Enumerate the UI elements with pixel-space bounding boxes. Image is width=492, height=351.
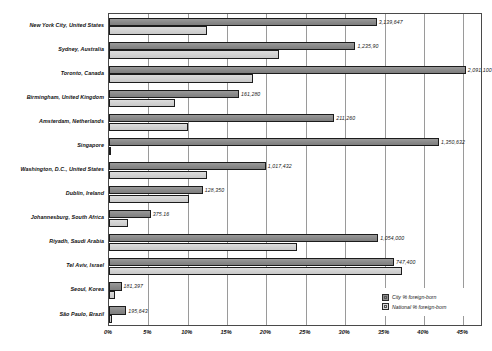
category-label: Birmingham, United Kingdom (27, 94, 104, 100)
bar-value-label: 3,139,647 (379, 19, 403, 25)
x-tick-label: 0% (104, 329, 112, 335)
category-label: Dublin, Ireland (66, 190, 104, 196)
legend-label: National % foreign-born (392, 304, 447, 310)
bar-group: 747,400 (109, 255, 481, 279)
x-tick-label: 30% (339, 329, 350, 335)
category-label: Toronto, Canada (61, 70, 104, 76)
bar-city[interactable]: 1,054,000 (109, 234, 378, 242)
bar-national[interactable] (109, 219, 128, 227)
bar-group: 211,260 (109, 110, 481, 134)
bar-city[interactable]: 161,280 (109, 90, 239, 98)
bar-group: 1,017,432 (109, 158, 481, 182)
x-tick-label: 35% (378, 329, 389, 335)
category-label: São Paulo, Brazil (59, 311, 104, 317)
bar-national[interactable] (109, 74, 253, 82)
bar-value-label: 161,280 (241, 91, 260, 97)
legend-item[interactable]: National % foreign-born (382, 303, 474, 310)
bar-rows: 3,139,6471,235,902,091,100161,280211,260… (109, 14, 481, 325)
bar-value-label: 2,091,100 (468, 67, 492, 73)
category-label: Sydney, Australia (58, 46, 104, 52)
bar-value-label: 1,054,000 (380, 235, 404, 241)
x-axis: 0%5%10%15%20%25%30%35%40%45% (108, 327, 482, 343)
category-label: Washington, D.C., United States (20, 166, 104, 172)
bar-value-label: 1,235,90 (357, 43, 378, 49)
bar-value-label: 195,643 (128, 308, 147, 314)
x-tick-label: 20% (260, 329, 271, 335)
bar-row: 1,350,632 (109, 134, 481, 158)
plot-area: 3,139,6471,235,902,091,100161,280211,260… (108, 13, 482, 326)
bar-national[interactable] (109, 291, 115, 299)
bar-value-label: 1,350,632 (441, 139, 465, 145)
x-tick-label: 10% (181, 329, 192, 335)
bar-national[interactable] (109, 195, 189, 203)
bar-value-label: 375.16 (153, 211, 169, 217)
bar-row: 375.16 (109, 207, 481, 231)
bar-row: 211,260 (109, 110, 481, 134)
bar-group: 161,280 (109, 86, 481, 110)
bar-city[interactable]: 3,139,647 (109, 18, 377, 26)
chart-legend: City % foreign-bornNational % foreign-bo… (378, 288, 478, 316)
bar-group: 2,091,100 (109, 62, 481, 86)
bar-value-label: 128,350 (205, 187, 224, 193)
bar-city[interactable]: 375.16 (109, 210, 151, 218)
x-tick-label: 5% (143, 329, 151, 335)
bar-value-label: 1,017,432 (268, 163, 292, 169)
bar-city[interactable]: 128,350 (109, 186, 203, 194)
bar-city[interactable]: 1,350,632 (109, 138, 439, 146)
bar-city[interactable]: 1,017,432 (109, 162, 266, 170)
bar-chart: New York City, United StatesSydney, Aust… (0, 0, 492, 351)
x-tick-label: 40% (417, 329, 428, 335)
category-label: Singapore (77, 142, 104, 148)
bar-value-label: 747,400 (396, 259, 415, 265)
bar-national[interactable] (109, 171, 207, 179)
bar-row: 2,091,100 (109, 62, 481, 86)
bar-national[interactable] (109, 315, 112, 323)
bar-city[interactable]: 181,397 (109, 282, 122, 290)
bar-row: 128,350 (109, 183, 481, 207)
bar-value-label: 211,260 (336, 115, 355, 121)
bar-row: 3,139,647 (109, 14, 481, 38)
bar-city[interactable]: 2,091,100 (109, 66, 466, 74)
bar-national[interactable] (109, 50, 279, 58)
bar-row: 1,017,432 (109, 158, 481, 182)
bar-city[interactable]: 747,400 (109, 258, 394, 266)
category-label: Amsterdam, Netherlands (39, 118, 104, 124)
category-label: Seoul, Korea (70, 286, 104, 292)
bar-city[interactable]: 211,260 (109, 114, 334, 122)
bar-group: 1,235,90 (109, 38, 481, 62)
bar-group: 1,054,000 (109, 231, 481, 255)
bar-group: 128,350 (109, 183, 481, 207)
legend-swatch-national (382, 303, 389, 310)
category-label: Riyadh, Saudi Arabia (49, 238, 104, 244)
bar-group: 1,350,632 (109, 134, 481, 158)
bar-group: 3,139,647 (109, 14, 481, 38)
category-label: Johannesburg, South Africa (31, 214, 104, 220)
x-tick-label: 45% (457, 329, 468, 335)
bar-national[interactable] (109, 243, 297, 251)
category-axis: New York City, United StatesSydney, Aust… (0, 13, 104, 326)
bar-city[interactable]: 195,643 (109, 306, 126, 314)
bar-national[interactable] (109, 147, 111, 155)
bar-national[interactable] (109, 267, 402, 275)
bar-row: 1,235,90 (109, 38, 481, 62)
legend-label: City % foreign-born (392, 294, 436, 300)
x-tick-label: 15% (220, 329, 231, 335)
legend-swatch-city (382, 294, 389, 301)
bar-city[interactable]: 1,235,90 (109, 42, 355, 50)
x-tick-label: 25% (299, 329, 310, 335)
bar-group: 375.16 (109, 207, 481, 231)
bar-national[interactable] (109, 99, 175, 107)
category-label: New York City, United States (29, 22, 104, 28)
bar-national[interactable] (109, 123, 188, 131)
bar-row: 161,280 (109, 86, 481, 110)
category-label: Tel Aviv, Israel (66, 262, 104, 268)
legend-item[interactable]: City % foreign-born (382, 294, 474, 301)
bar-value-label: 181,397 (124, 283, 143, 289)
bar-row: 747,400 (109, 255, 481, 279)
bar-national[interactable] (109, 26, 207, 34)
bar-row: 1,054,000 (109, 231, 481, 255)
